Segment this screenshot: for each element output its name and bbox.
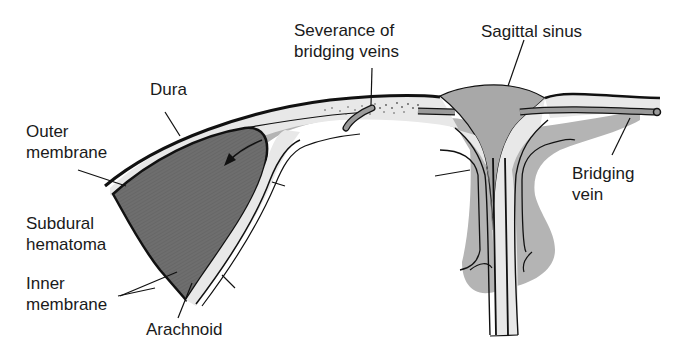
label-dura: Dura [150, 79, 187, 100]
label-bridging-vein: Bridging vein [572, 163, 634, 205]
label-sagittal-sinus: Sagittal sinus [481, 21, 582, 42]
label-subdural-hematoma: Subdural hematoma [26, 213, 106, 255]
label-arachnoid: Arachnoid [146, 319, 223, 340]
bridging-vein-end [654, 109, 661, 116]
label-severance-of-bridging-veins: Severance of bridging veins [294, 20, 399, 62]
label-inner-membrane: Inner membrane [26, 273, 107, 315]
label-outer-membrane: Outer membrane [26, 121, 107, 163]
brain-white-area [293, 143, 447, 282]
